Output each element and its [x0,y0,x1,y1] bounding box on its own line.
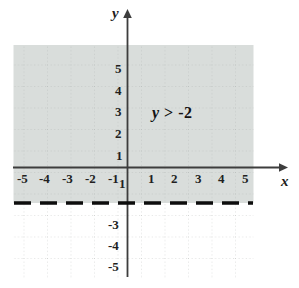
y-tick-3: 3 [115,105,122,118]
inequality-graph-figure: -5 -4 -3 -2 -1 1 2 3 4 5 5 4 3 2 1 1 -3 … [0,0,299,288]
y-tick-neg5: -5 [108,260,119,273]
x-tick-5: 5 [242,172,249,185]
annotation-variable: y [152,104,160,121]
inequality-annotation: y > -2 [152,104,193,122]
x-tick-neg5: -5 [17,172,28,185]
annotation-value: -2 [178,104,192,121]
x-tick-neg2: -2 [85,172,96,185]
annotation-operator: > [164,104,174,121]
graph-canvas [0,0,299,288]
y-tick-neg4: -4 [108,239,119,252]
x-tick-neg4: -4 [39,172,50,185]
y-tick-neg1: 1 [119,177,126,190]
x-tick-neg3: -3 [62,172,73,185]
y-tick-neg3: -3 [108,218,119,231]
x-tick-2: 2 [171,172,178,185]
y-tick-4: 4 [115,84,122,97]
x-tick-1: 1 [148,172,155,185]
y-tick-2: 2 [115,127,122,140]
coordinate-plane: -5 -4 -3 -2 -1 1 2 3 4 5 5 4 3 2 1 1 -3 … [0,0,299,288]
y-tick-5: 5 [115,62,122,75]
x-tick-neg1: -1 [108,172,119,185]
y-axis-label: y [112,6,119,21]
x-axis-label: x [281,174,289,189]
x-tick-3: 3 [195,172,202,185]
y-tick-1: 1 [116,149,123,162]
x-tick-4: 4 [218,172,225,185]
